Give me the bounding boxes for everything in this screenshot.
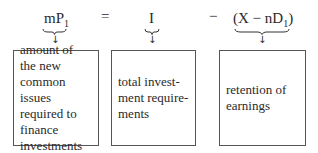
term3-open: (X − nD bbox=[233, 10, 283, 26]
down-arrow-icon: ↓ bbox=[148, 35, 156, 45]
box-retention-earnings: retention of earnings bbox=[219, 50, 306, 146]
down-arrow-icon: ↓ bbox=[258, 35, 266, 45]
box-text: amount of the new common issues required… bbox=[20, 42, 92, 153]
term3-close: ) bbox=[288, 10, 293, 26]
minus-sign: − bbox=[209, 8, 217, 25]
equals-sign: = bbox=[101, 8, 109, 25]
term-mp1-sub: 1 bbox=[64, 18, 69, 29]
term-mp1-main: mP bbox=[44, 10, 64, 26]
term-i: I bbox=[149, 9, 154, 27]
box-text: total invest- ment require- ments bbox=[118, 74, 189, 122]
box-new-common-issues: amount of the new common issues required… bbox=[13, 50, 99, 146]
box-total-investment: total invest- ment require- ments bbox=[111, 50, 196, 146]
box-text: retention of earnings bbox=[226, 82, 299, 114]
